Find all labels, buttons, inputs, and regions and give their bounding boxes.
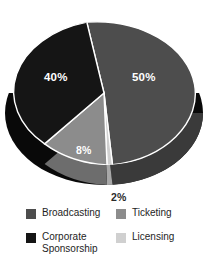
slice-value-licensing: 2%: [111, 191, 127, 203]
legend-item-licensing[interactable]: Licensing: [108, 231, 210, 243]
legend-swatch-broadcasting: [26, 209, 36, 219]
legend-swatch-ticketing: [116, 209, 126, 219]
pie-svg: [0, 0, 210, 200]
legend-item-corporate-sponsorship[interactable]: Corporate Sponsorship: [0, 231, 108, 254]
legend-label-broadcasting: Broadcasting: [42, 207, 100, 219]
chart-legend: Broadcasting Ticketing Corporate Sponsor…: [0, 207, 210, 271]
legend-label-ticketing: Ticketing: [132, 207, 172, 219]
legend-swatch-licensing: [116, 233, 126, 243]
legend-item-ticketing[interactable]: Ticketing: [108, 207, 210, 219]
slice-value-ticketing: 8%: [76, 144, 92, 156]
pie-chart-figure: 50% 40% 8% 2% Broadcasting Ticketing Cor…: [0, 0, 210, 271]
pie-chart-graphic: 50% 40% 8% 2%: [0, 0, 210, 200]
legend-label-licensing: Licensing: [132, 231, 174, 243]
legend-swatch-corporate-sponsorship: [26, 233, 36, 243]
slice-value-broadcasting: 50%: [132, 71, 156, 83]
legend-label-corporate-sponsorship: Corporate Sponsorship: [42, 231, 98, 254]
legend-item-broadcasting[interactable]: Broadcasting: [0, 207, 108, 219]
slice-value-corporate-sponsorship: 40%: [44, 71, 68, 83]
